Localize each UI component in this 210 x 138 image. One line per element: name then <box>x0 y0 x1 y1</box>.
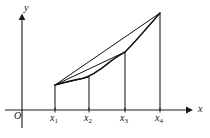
tick-label-x2-sub: 2 <box>88 117 92 125</box>
tick-label-x2: x2 <box>84 113 92 123</box>
origin-label: O <box>14 111 21 121</box>
tick-label-x1: x1 <box>50 113 58 123</box>
chord-x1-x4 <box>55 13 160 85</box>
tick-label-x1-sub: 1 <box>54 117 58 125</box>
tick-label-x3: x3 <box>120 113 128 123</box>
x-axis-arrowhead <box>186 107 193 114</box>
tick-label-x4: x4 <box>155 113 163 123</box>
tick-label-x3-sub: 3 <box>124 117 128 125</box>
y-axis-label: y <box>24 3 28 13</box>
figure-canvas <box>0 0 210 138</box>
tick-label-x4-sub: 4 <box>159 117 163 125</box>
y-axis-arrowhead <box>19 14 26 21</box>
figure-container: O y x x1 x2 x3 x4 <box>0 0 210 138</box>
chord-x1-x3 <box>55 52 125 85</box>
x-axis-label: x <box>198 104 202 114</box>
